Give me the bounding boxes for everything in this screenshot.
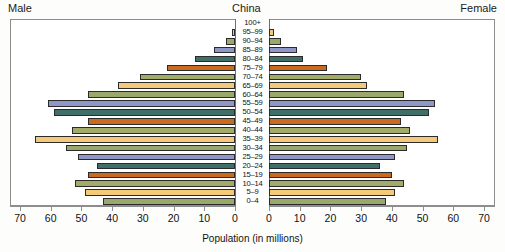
bar-male-70–74	[140, 74, 235, 81]
x-tick-left	[20, 206, 21, 211]
x-tick-left	[235, 206, 236, 211]
bar-male-85–89	[214, 47, 236, 54]
x-tick-right	[484, 206, 485, 211]
bar-male-95–99	[232, 29, 235, 36]
bar-female-95–99	[269, 29, 274, 36]
bar-male-65–69	[118, 82, 235, 89]
bar-male-25–29	[78, 154, 235, 161]
bar-female-30–34	[269, 145, 407, 152]
x-tick-right	[300, 206, 301, 211]
bar-female-85–89	[269, 47, 297, 54]
x-tick-label-right: 50	[417, 212, 429, 224]
x-tick-right	[330, 206, 331, 211]
x-tick-label-right: 10	[294, 212, 306, 224]
age-group-label: 75–79	[236, 64, 269, 72]
x-tick-label-right: 20	[325, 212, 337, 224]
x-axis-title: Population (in millions)	[0, 233, 505, 244]
bar-male-10–14	[75, 180, 235, 187]
age-group-label: 25–29	[236, 153, 269, 161]
male-side-label: Male	[8, 2, 32, 14]
x-tick-right	[453, 206, 454, 211]
bar-male-30–34	[66, 145, 235, 152]
x-tick-left	[143, 206, 144, 211]
x-tick-left	[204, 206, 205, 211]
age-group-label: 65–69	[236, 82, 269, 90]
x-tick-label-right: 60	[447, 212, 459, 224]
bar-female-35–39	[269, 136, 438, 143]
x-tick-right	[269, 206, 270, 211]
bar-female-60–64	[269, 91, 404, 98]
bar-female-75–79	[269, 65, 327, 72]
x-tick-label-left: 0	[232, 212, 238, 224]
x-tick-left	[112, 206, 113, 211]
bar-male-5–9	[85, 189, 236, 196]
bar-male-75–79	[167, 65, 235, 72]
bar-female-90–94	[269, 38, 281, 45]
bar-male-40–44	[72, 127, 235, 134]
x-tick-label-right: 0	[266, 212, 272, 224]
bar-male-60–64	[88, 91, 235, 98]
x-tick-label-right: 40	[386, 212, 398, 224]
bar-male-35–39	[35, 136, 235, 143]
bar-female-5–9	[269, 189, 395, 196]
x-tick-right	[361, 206, 362, 211]
age-group-label: 70–74	[236, 73, 269, 81]
bar-female-45–49	[269, 118, 401, 125]
bar-female-0–4	[269, 198, 386, 205]
x-tick-label-left: 20	[168, 212, 180, 224]
x-tick-label-right: 30	[355, 212, 367, 224]
bar-female-55–59	[269, 100, 435, 107]
x-tick-label-left: 10	[198, 212, 210, 224]
age-group-label: 0–4	[236, 197, 269, 205]
x-tick-label-left: 40	[106, 212, 118, 224]
x-tick-left	[81, 206, 82, 211]
bar-male-80–84	[195, 56, 235, 63]
x-axis-line-right	[269, 206, 495, 207]
bar-female-40–44	[269, 127, 410, 134]
age-group-label: 15–19	[236, 171, 269, 179]
x-tick-label-left: 50	[76, 212, 88, 224]
bar-female-50–54	[269, 109, 429, 116]
bar-female-80–84	[269, 56, 303, 63]
bar-female-65–69	[269, 82, 367, 89]
bar-female-70–74	[269, 74, 361, 81]
bar-male-15–19	[88, 172, 235, 179]
bar-male-50–54	[54, 109, 235, 116]
bar-female-25–29	[269, 154, 395, 161]
female-side-label: Female	[460, 2, 497, 14]
bar-male-0–4	[103, 198, 235, 205]
chart-header: Male China Female	[0, 0, 505, 20]
bar-female-20–24	[269, 163, 380, 170]
x-axis-line-left	[10, 206, 236, 207]
x-tick-label-left: 60	[45, 212, 57, 224]
plot-area: 100+95–9990–9485–8980–8475–7970–7465–696…	[10, 19, 495, 206]
x-tick-left	[174, 206, 175, 211]
chart-title: China	[232, 2, 261, 14]
bar-male-20–24	[97, 163, 235, 170]
bar-female-10–14	[269, 180, 404, 187]
age-group-label: 20–24	[236, 162, 269, 170]
bar-male-90–94	[226, 38, 235, 45]
age-group-label: 80–84	[236, 55, 269, 63]
x-tick-right	[392, 206, 393, 211]
x-tick-label-left: 70	[14, 212, 26, 224]
bar-female-15–19	[269, 172, 392, 179]
x-tick-right	[423, 206, 424, 211]
x-axis: 706050403020100010203040506070	[10, 206, 495, 207]
bar-male-45–49	[88, 118, 235, 125]
bar-male-55–59	[48, 100, 235, 107]
age-group-label-column: 100+95–9990–9485–8980–8475–7970–7465–696…	[236, 19, 269, 206]
x-tick-label-right: 70	[478, 212, 490, 224]
population-pyramid-chart: Male China Female 100+95–9990–9485–8980–…	[0, 0, 505, 252]
x-tick-label-left: 30	[137, 212, 149, 224]
x-tick-left	[51, 206, 52, 211]
